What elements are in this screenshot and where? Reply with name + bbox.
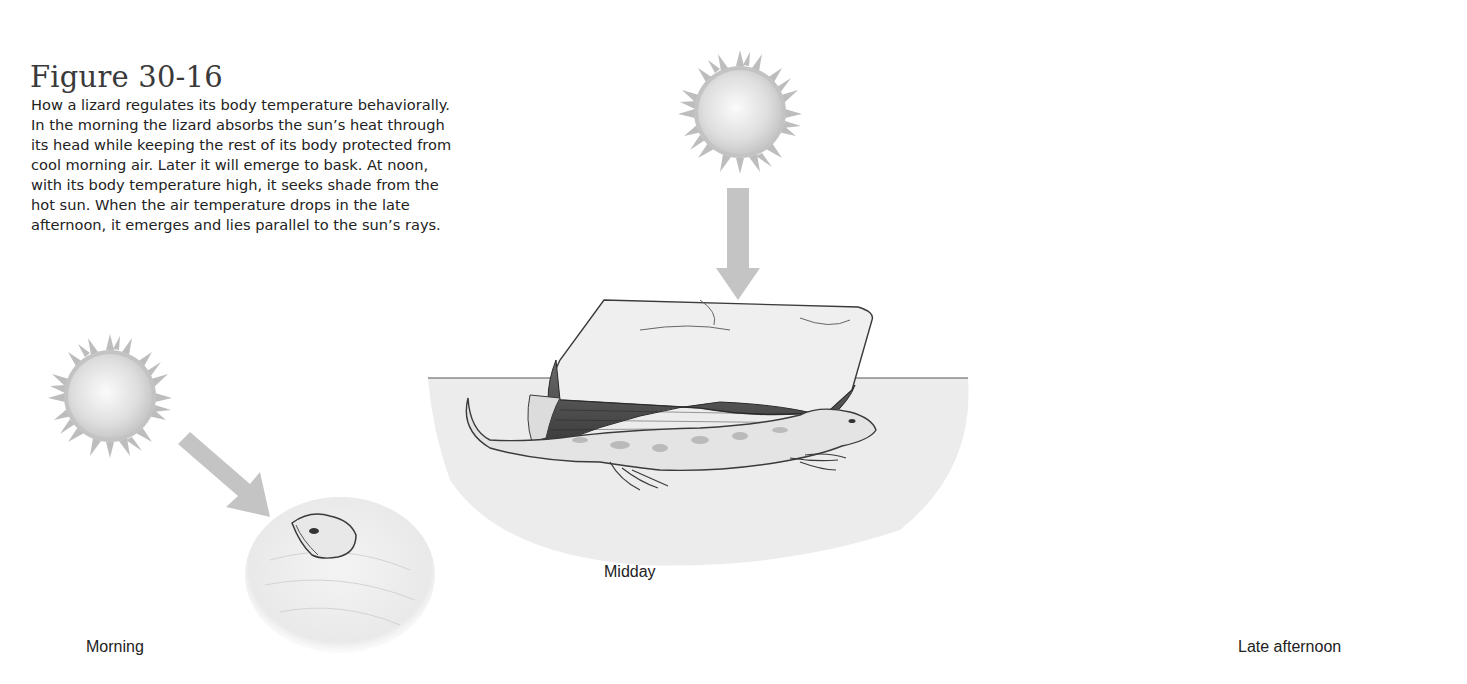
scene-morning xyxy=(48,334,435,653)
scene-label-midday: Midday xyxy=(604,563,656,581)
illustration xyxy=(0,0,1467,684)
arrow-down-right-icon xyxy=(178,432,270,517)
arrow-down-icon xyxy=(716,188,760,300)
scene-label-morning: Morning xyxy=(86,638,144,656)
sun-icon xyxy=(48,334,172,458)
scene-label-late-afternoon: Late afternoon xyxy=(1238,638,1341,656)
scene-midday xyxy=(428,50,969,566)
sun-icon xyxy=(678,50,802,174)
